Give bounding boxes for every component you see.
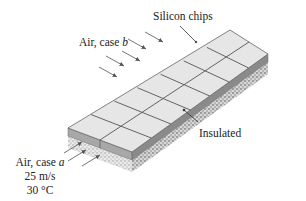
air-case-a-var: a [59,156,65,168]
silicon-chips-label: Silicon chips [153,9,213,23]
air-case-b-label: Air, case b [79,35,128,49]
air-temperature-label: 30 °C [12,183,68,197]
air-velocity-label: 25 m/s [12,169,68,183]
air-case-a-prefix: Air, case [15,156,58,168]
air-case-a-label: Air, case a [12,155,68,169]
insulated-label: Insulated [199,126,241,140]
air-case-a-block: Air, case a 25 m/s 30 °C [12,155,68,197]
air-case-b-prefix: Air, case [79,36,122,48]
air-case-b-var: b [122,36,128,48]
